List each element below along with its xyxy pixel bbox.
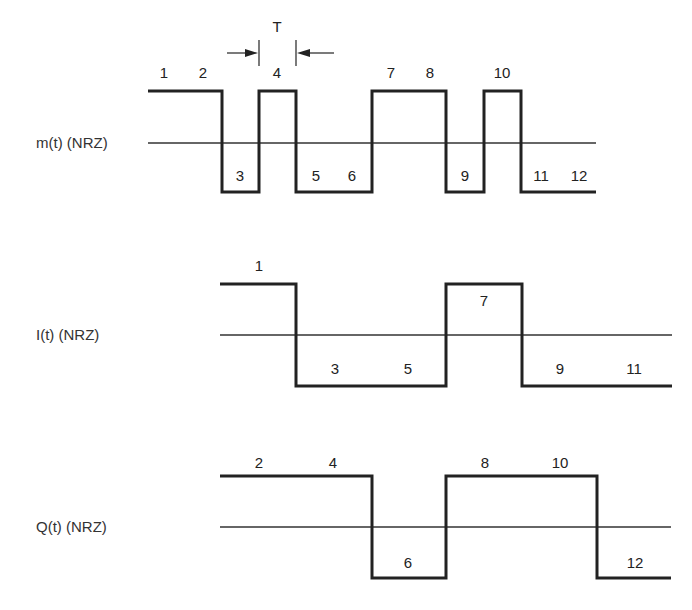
period-label: T [272,18,281,35]
bit-label: 12 [571,167,588,184]
bit-label: 6 [348,167,356,184]
bit-label: 6 [404,554,412,571]
waveform-diagram: T m(t) (NRZ)123456789101112I(t) (NRZ)135… [0,0,692,610]
signal-Q: Q(t) (NRZ)24681012 [36,454,671,578]
bit-label: 9 [556,360,564,377]
signal-m: m(t) (NRZ)123456789101112 [36,64,596,192]
bit-label: 2 [199,64,207,81]
arrow-right-icon [245,49,258,57]
bit-label: 2 [255,454,263,471]
signal-group: m(t) (NRZ)123456789101112I(t) (NRZ)13579… [36,64,672,578]
bit-label: 3 [331,360,339,377]
bit-label: 5 [312,167,320,184]
period-marker: T [227,18,334,66]
bit-label: 1 [255,257,263,274]
signal-label: Q(t) (NRZ) [36,518,107,535]
signal-I: I(t) (NRZ)1357911 [36,257,672,386]
bit-label: 9 [461,167,469,184]
bit-label: 8 [426,64,434,81]
bit-label: 1 [160,64,168,81]
bit-label: 10 [552,454,569,471]
bit-label: 4 [273,64,281,81]
bit-label: 10 [494,64,511,81]
bit-label: 11 [533,167,549,184]
bit-label: 8 [481,454,489,471]
arrow-left-icon [297,49,310,57]
signal-label: I(t) (NRZ) [36,326,99,343]
bit-label: 7 [480,292,488,309]
bit-label: 5 [404,360,412,377]
bit-label: 12 [627,554,644,571]
bit-label: 11 [626,360,642,377]
bit-label: 4 [329,454,337,471]
bit-label: 7 [387,64,395,81]
nrz-waveform [148,91,596,192]
bit-label: 3 [236,167,244,184]
signal-label: m(t) (NRZ) [36,134,108,151]
